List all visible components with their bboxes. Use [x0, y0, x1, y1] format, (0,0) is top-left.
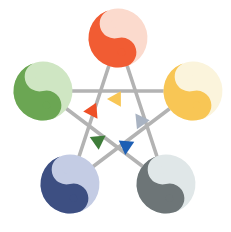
yinyang-fire: [82, 2, 154, 74]
wuxing-canvas: [0, 0, 231, 232]
yinyang-metal: [157, 55, 229, 127]
yinyang-wood: [7, 55, 79, 127]
yinyang-earth: [130, 148, 202, 220]
arrow-red-icon: [83, 103, 104, 123]
wuxing-diagram: Wu Xing Five Elements Cycle: [0, 0, 231, 232]
arrow-yellow-icon: [107, 91, 121, 107]
yinyang-nodes-group: [7, 2, 229, 220]
yinyang-water: [34, 148, 106, 220]
